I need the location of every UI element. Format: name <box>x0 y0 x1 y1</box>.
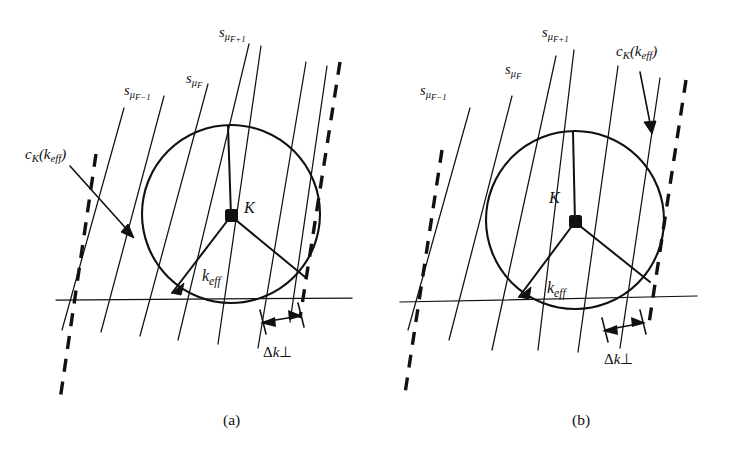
panel-a-ck-pointer <box>70 166 131 234</box>
panel-a-label-center: K <box>244 200 255 216</box>
panel-a-center-marker <box>225 209 238 222</box>
panel-a-radii <box>172 126 305 293</box>
panel-a-label-spoke-plus: sμF+1 <box>219 25 246 44</box>
lattice-line-b3 <box>492 56 556 350</box>
radius-b-right <box>575 222 650 282</box>
panel-b-label-spoke-mid: sμF <box>505 62 521 81</box>
panel-b-label-vector: keff <box>547 280 566 299</box>
dashed-boundary-a-right <box>300 62 340 318</box>
panel-a-dk-measure <box>260 303 304 334</box>
panel-a-caption: (a) <box>223 411 240 429</box>
lattice-line-a1 <box>62 108 124 330</box>
panel-b-dk-measure <box>602 310 646 342</box>
lattice-line-a2 <box>101 96 164 332</box>
panel-b-caption: (b) <box>572 411 590 429</box>
radius-a-right <box>231 216 305 277</box>
figure-root: sμF−1 sμF sμF+1 cK(keff) K keff Δk⊥ (a) … <box>0 0 749 453</box>
lattice-line-a3 <box>140 84 208 336</box>
panel-a-label-spoke-mid: sμF <box>186 71 202 90</box>
dashed-boundary-a-left <box>60 154 96 400</box>
panel-a-label-vector: keff <box>202 268 221 287</box>
radius-b-up <box>573 132 575 222</box>
diagram-canvas <box>0 0 749 453</box>
panel-a-graphics <box>56 44 352 400</box>
panel-b-label-center: K <box>549 190 560 206</box>
panel-a-label-circle: cK(keff) <box>25 147 66 164</box>
panel-b-ck-pointer <box>640 72 651 128</box>
panel-b-radii <box>519 132 650 297</box>
lattice-line-a7 <box>290 66 327 322</box>
dashed-boundary-b-left <box>404 150 442 400</box>
panel-b-graphics <box>400 50 697 400</box>
ck-pointer-head-b <box>644 121 656 134</box>
radius-a-up <box>228 126 231 216</box>
panel-b-label-spoke-minus: sμF−1 <box>420 83 447 102</box>
ck-pointer-line-b <box>640 72 651 128</box>
panel-b-dashed-boundaries <box>404 80 686 400</box>
lattice-line-b6 <box>620 78 660 348</box>
panel-b-center-marker <box>569 215 582 228</box>
panel-a-label-spoke-minus: sμF−1 <box>124 83 151 102</box>
panel-a-label-spacing: Δk⊥ <box>263 345 292 360</box>
panel-b-label-spoke-plus: sμF+1 <box>542 25 569 44</box>
panel-b-label-spacing: Δk⊥ <box>604 352 633 367</box>
ck-pointer-line-a <box>70 166 131 234</box>
panel-b-label-circle: cK(keff) <box>616 44 657 61</box>
